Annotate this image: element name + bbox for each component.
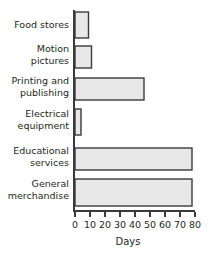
category-labels: Food stores Motion pictures Printing and… xyxy=(8,19,70,201)
category-label-electrical-equipment-line1: Electrical xyxy=(25,108,69,119)
category-label-educational-services-line1: Educational xyxy=(13,145,69,156)
x-tick-label-40: 40 xyxy=(129,219,141,230)
x-tick-marks xyxy=(75,212,195,218)
x-tick-label-0: 0 xyxy=(72,219,78,230)
category-label-educational-services-line2: services xyxy=(30,157,69,168)
bar-chart: 0 10 20 30 40 50 60 70 80 Days Food stor… xyxy=(0,0,209,267)
category-label-food-stores: Food stores xyxy=(14,19,69,30)
category-label-electrical-equipment-line2: equipment xyxy=(18,120,70,131)
bar-motion-pictures[interactable] xyxy=(75,46,92,68)
x-tick-label-80: 80 xyxy=(189,219,201,230)
x-axis-title: Days xyxy=(116,236,141,247)
bars-group xyxy=(75,12,192,206)
x-tick-label-50: 50 xyxy=(144,219,156,230)
x-tick-label-10: 10 xyxy=(84,219,96,230)
category-label-printing-and-publishing-line2: publishing xyxy=(20,87,69,98)
bar-food-stores[interactable] xyxy=(75,12,89,38)
category-label-motion-pictures-line1: Motion xyxy=(37,43,69,54)
category-label-motion-pictures-line2: pictures xyxy=(31,55,69,66)
category-label-printing-and-publishing-line1: Printing and xyxy=(12,75,69,86)
x-tick-label-30: 30 xyxy=(114,219,126,230)
category-label-general-merchandise-line2: merchandise xyxy=(8,190,70,201)
category-label-general-merchandise-line1: General xyxy=(32,178,69,189)
x-tick-label-20: 20 xyxy=(99,219,111,230)
bar-general-merchandise[interactable] xyxy=(75,179,192,206)
chart-canvas: 0 10 20 30 40 50 60 70 80 Days Food stor… xyxy=(0,0,209,267)
bar-electrical-equipment[interactable] xyxy=(75,109,81,135)
x-tick-labels: 0 10 20 30 40 50 60 70 80 xyxy=(72,219,201,230)
x-tick-label-60: 60 xyxy=(159,219,171,230)
bar-educational-services[interactable] xyxy=(75,148,192,170)
bar-printing-and-publishing[interactable] xyxy=(75,78,144,100)
x-tick-label-70: 70 xyxy=(174,219,186,230)
